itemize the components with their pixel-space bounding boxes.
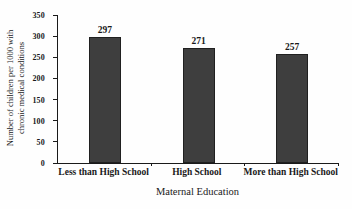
x-axis-title: Maternal Education <box>57 186 338 197</box>
bar <box>183 48 215 163</box>
y-tick-label: 150 <box>32 95 45 104</box>
y-tick-label: 300 <box>32 32 45 41</box>
bar-value-label: 297 <box>58 25 152 35</box>
category-label: Less than High School <box>57 167 150 177</box>
bar-cell: 271 <box>152 15 246 163</box>
y-tick-mark <box>53 57 57 58</box>
y-tick-label: 0 <box>41 159 45 168</box>
bars-container: 297271257 <box>58 15 339 163</box>
y-tick-mark <box>53 15 57 16</box>
category-label: High School <box>150 167 243 177</box>
y-tick-mark <box>53 36 57 37</box>
category-labels: Less than High SchoolHigh SchoolMore tha… <box>57 167 338 177</box>
plot-area: 297271257 <box>57 15 339 164</box>
y-tick-mark <box>53 163 57 164</box>
y-tick-label: 350 <box>32 11 45 20</box>
y-tick-mark <box>53 120 57 121</box>
x-tick-mark <box>151 163 152 166</box>
x-tick-mark <box>338 163 339 166</box>
x-tick-mark <box>244 163 245 166</box>
bar-value-label: 271 <box>152 36 246 46</box>
bar <box>89 37 121 163</box>
category-label: More than High School <box>243 167 338 177</box>
y-tick-mark <box>53 99 57 100</box>
bar-value-label: 257 <box>245 42 339 52</box>
y-tick-label: 100 <box>32 116 45 125</box>
bar-cell: 297 <box>58 15 152 163</box>
y-tick-mark <box>53 141 57 142</box>
bar-chart: Number of children per 1000 with chronic… <box>0 0 352 209</box>
y-tick-label: 200 <box>32 74 45 83</box>
y-tick-label: 250 <box>32 53 45 62</box>
y-tick-mark <box>53 78 57 79</box>
y-axis-tick-labels: 050100150200250300350 <box>0 15 52 163</box>
bar <box>276 54 308 163</box>
bar-cell: 257 <box>245 15 339 163</box>
y-tick-label: 50 <box>37 137 45 146</box>
